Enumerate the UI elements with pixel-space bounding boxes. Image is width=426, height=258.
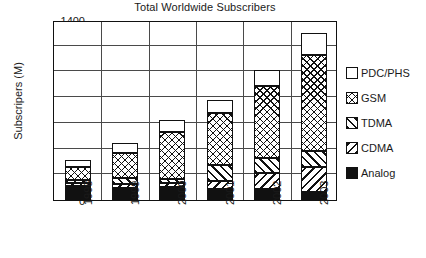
gridline: [54, 148, 336, 149]
gridline: [54, 70, 336, 71]
chart-container: Total Worldwide Subscribers Subscripers …: [0, 0, 426, 258]
bar-segment-pdc-phs[interactable]: [254, 70, 280, 85]
bar-segment-tdma[interactable]: [207, 165, 233, 181]
x-tick-label: 2002: [271, 181, 283, 205]
x-tick-label: 2003: [318, 181, 330, 205]
bar-segment-pdc-phs[interactable]: [159, 120, 185, 132]
bar-segment-gsm[interactable]: [301, 55, 327, 151]
x-tick-label: 1998: [82, 181, 94, 205]
legend-item[interactable]: PDC/PHS: [346, 60, 426, 85]
plot-area: [53, 21, 337, 201]
bar-segment-pdc-phs[interactable]: [112, 143, 138, 153]
legend-swatch-icon: [346, 67, 358, 79]
bar-segment-tdma[interactable]: [254, 158, 280, 173]
x-tick-label: 1999: [129, 181, 141, 205]
legend-swatch-icon: [346, 167, 358, 179]
legend-item[interactable]: CDMA: [346, 135, 426, 160]
bar-segment-gsm[interactable]: [112, 153, 138, 177]
bar-segment-gsm[interactable]: [65, 167, 91, 181]
chart-title: Total Worldwide Subscribers: [75, 1, 335, 13]
category-separator: [149, 22, 150, 200]
bar-segment-gsm[interactable]: [254, 86, 280, 158]
gridline: [54, 122, 336, 123]
legend-swatch-icon: [346, 142, 358, 154]
legend-label: Analog: [361, 167, 395, 179]
legend-item[interactable]: Analog: [346, 160, 426, 185]
x-tick-label: 2001: [224, 181, 236, 205]
legend-label: TDMA: [361, 117, 392, 129]
legend-label: GSM: [361, 92, 386, 104]
legend-item[interactable]: GSM: [346, 85, 426, 110]
category-separator: [243, 22, 244, 200]
y-axis-title: Subscripers (M): [12, 46, 24, 156]
bar-segment-pdc-phs[interactable]: [301, 33, 327, 55]
category-separator: [291, 22, 292, 200]
x-tick-label: 2000: [176, 181, 188, 205]
legend-label: PDC/PHS: [361, 67, 410, 79]
legend-item[interactable]: TDMA: [346, 110, 426, 135]
legend-swatch-icon: [346, 117, 358, 129]
bar-segment-pdc-phs[interactable]: [65, 160, 91, 166]
chart-legend: PDC/PHSGSMTDMACDMAAnalog: [346, 60, 426, 185]
gridline: [54, 173, 336, 174]
category-separator: [101, 22, 102, 200]
bar-segment-gsm[interactable]: [159, 132, 185, 179]
bar-segment-tdma[interactable]: [301, 151, 327, 167]
legend-swatch-icon: [346, 92, 358, 104]
legend-label: CDMA: [361, 142, 393, 154]
category-separator: [196, 22, 197, 200]
bar-segment-gsm[interactable]: [207, 113, 233, 165]
gridline: [54, 45, 336, 46]
bar-segment-pdc-phs[interactable]: [207, 100, 233, 114]
gridline: [54, 96, 336, 97]
